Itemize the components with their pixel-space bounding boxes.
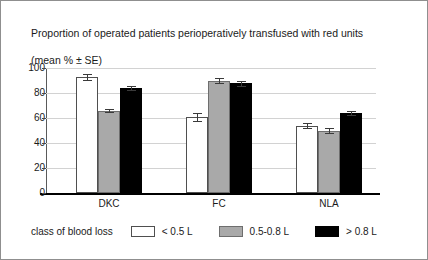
chart-title-line-2: (mean % ± SE) (31, 54, 391, 68)
bar-fc-series-0 (186, 117, 208, 193)
legend-swatch-0 (131, 226, 155, 237)
bar-nla-series-0 (296, 126, 318, 194)
error-bar-line (197, 113, 198, 121)
y-axis-tick-label: 80 (15, 88, 45, 98)
error-bar-cap-upper (347, 111, 356, 112)
x-axis-baseline (40, 193, 380, 195)
gridline (46, 68, 376, 69)
error-bar-cap-lower (83, 80, 92, 81)
legend-item-0[interactable]: < 0.5 L (131, 226, 193, 237)
legend-label-0: < 0.5 L (162, 226, 193, 237)
error-bar-cap-lower (237, 86, 246, 87)
legend-swatch-2 (315, 226, 339, 237)
plot-area (46, 68, 376, 193)
chart-title-line-1: Proportion of operated patients perioper… (31, 27, 391, 41)
error-bar-cap-lower (215, 83, 224, 84)
y-axis-tick-mark (42, 68, 46, 69)
y-axis-tick-label: 20 (15, 163, 45, 173)
x-axis-group-label-fc: FC (189, 198, 249, 210)
y-axis-tick-label: 40 (15, 138, 45, 148)
y-axis-tick-label: 60 (15, 113, 45, 123)
y-axis-tick-mark (42, 193, 46, 194)
legend-item-1[interactable]: 0.5-0.8 L (219, 226, 289, 237)
bar-nla-series-1 (318, 131, 340, 194)
y-axis-tick-label: 100 (15, 63, 45, 73)
error-bar-cap-upper (215, 78, 224, 79)
y-axis-tick-mark (42, 118, 46, 119)
legend-item-2[interactable]: > 0.8 L (315, 226, 377, 237)
y-axis-tick-mark (42, 93, 46, 94)
bar-fc-series-1 (208, 81, 230, 194)
chart-legend: class of blood loss< 0.5 L0.5-0.8 L> 0.8… (31, 226, 403, 237)
legend-label-2: > 0.8 L (346, 226, 377, 237)
x-axis-group-label-dkc: DKC (79, 198, 139, 210)
bar-nla-series-2 (340, 113, 362, 193)
bar-fc-series-2 (230, 83, 252, 193)
error-bar-cap-lower (347, 115, 356, 116)
x-axis-group-label-nla: NLA (299, 198, 359, 210)
bar-dkc-series-1 (98, 111, 120, 194)
error-bar-cap-upper (105, 109, 114, 110)
error-bar-cap-lower (193, 121, 202, 122)
legend-label-1: 0.5-0.8 L (250, 226, 289, 237)
legend-swatch-1 (219, 226, 243, 237)
y-axis-tick-mark (42, 143, 46, 144)
error-bar-cap-upper (127, 86, 136, 87)
error-bar-cap-lower (325, 133, 334, 134)
error-bar-cap-lower (105, 112, 114, 113)
bar-dkc-series-0 (76, 77, 98, 193)
error-bar-cap-upper (83, 74, 92, 75)
error-bar-cap-lower (127, 90, 136, 91)
error-bar-cap-upper (303, 123, 312, 124)
legend-title: class of blood loss (31, 226, 113, 237)
error-bar-cap-upper (193, 113, 202, 114)
error-bar-cap-lower (303, 128, 312, 129)
error-bar-cap-upper (325, 128, 334, 129)
bar-dkc-series-2 (120, 88, 142, 193)
chart-figure: Proportion of operated patients perioper… (0, 0, 428, 260)
y-axis-tick-mark (42, 168, 46, 169)
y-axis-tick-label: 0 (15, 188, 45, 198)
error-bar-cap-upper (237, 81, 246, 82)
